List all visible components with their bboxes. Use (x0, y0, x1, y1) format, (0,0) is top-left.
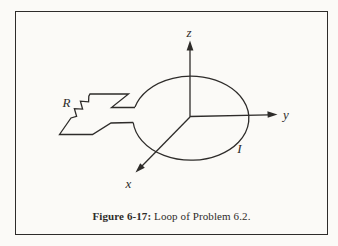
x-axis-label: x (125, 176, 132, 191)
circuit-wire-resistor (60, 94, 136, 135)
y-axis-arrow-icon (267, 111, 277, 117)
loop-ellipse (133, 76, 249, 160)
current-label: I (236, 141, 242, 156)
y-axis-label: y (281, 107, 289, 122)
z-axis-label: z (185, 25, 191, 40)
x-axis (142, 117, 191, 167)
figure-caption-label: Figure 6-17: (92, 210, 151, 222)
resistor-label: R (62, 95, 71, 110)
figure-caption: Figure 6-17: Loop of Problem 6.2. (15, 210, 328, 222)
z-axis-arrow-icon (187, 41, 194, 51)
y-axis (190, 115, 269, 117)
figure-caption-text: Loop of Problem 6.2. (151, 210, 250, 222)
figure-page: z y x I R Figure 6-17: Loop of Problem 6… (0, 0, 338, 246)
